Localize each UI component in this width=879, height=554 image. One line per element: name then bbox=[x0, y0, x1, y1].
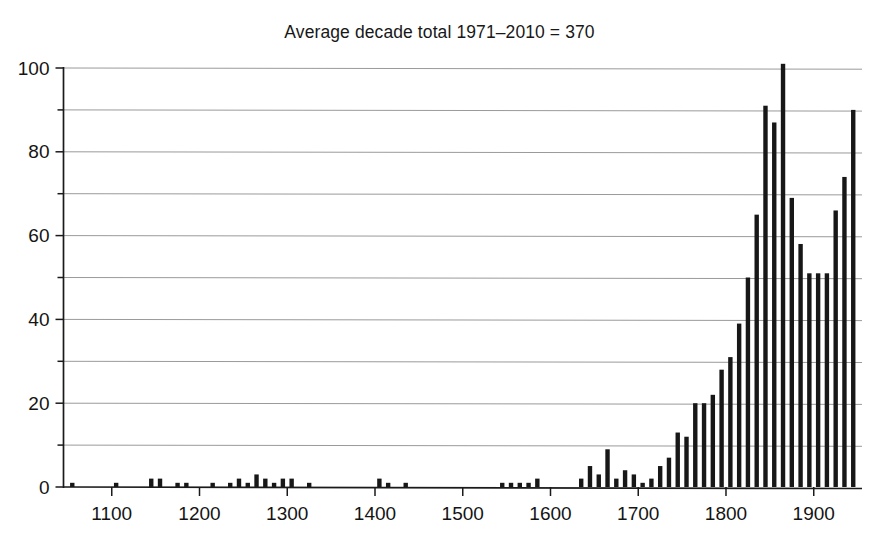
bar-1630 bbox=[579, 479, 583, 487]
bar-1680 bbox=[623, 470, 627, 487]
bar-1900 bbox=[816, 273, 820, 487]
bars-group bbox=[70, 64, 855, 487]
tick-marks-group bbox=[56, 68, 814, 496]
bar-1650 bbox=[597, 474, 601, 487]
gridline-y-30 bbox=[64, 361, 863, 362]
bar-1550 bbox=[509, 483, 513, 487]
gridline-y-40 bbox=[64, 319, 863, 320]
y-tick-label-0: 0 bbox=[39, 477, 50, 498]
bar-1250 bbox=[246, 483, 250, 487]
y-tick-label-20: 20 bbox=[28, 393, 49, 414]
bar-1240 bbox=[237, 479, 241, 487]
bar-1800 bbox=[728, 357, 732, 487]
bar-1730 bbox=[667, 458, 671, 487]
bar-1570 bbox=[526, 483, 530, 487]
bar-1820 bbox=[746, 278, 750, 488]
bar-1400 bbox=[377, 479, 381, 487]
bar-1860 bbox=[781, 64, 785, 487]
bar-1300 bbox=[289, 479, 293, 487]
bar-1580 bbox=[535, 479, 539, 487]
y-tick-label-80: 80 bbox=[28, 141, 49, 162]
bar-1280 bbox=[272, 483, 276, 487]
bar-1810 bbox=[737, 324, 741, 487]
x-axis-labels-group: 110012001300140015001600170018001900 bbox=[91, 503, 835, 524]
gridline-y-10 bbox=[64, 445, 863, 446]
bar-1670 bbox=[614, 479, 618, 487]
bar-1890 bbox=[807, 273, 811, 487]
bar-1270 bbox=[263, 479, 267, 487]
bar-1710 bbox=[649, 479, 653, 487]
gridline-y-70 bbox=[64, 194, 863, 195]
bar-1760 bbox=[693, 403, 697, 487]
bar-1870 bbox=[790, 198, 794, 487]
y-axis-labels-group: 020406080100 bbox=[18, 58, 50, 498]
bar-1180 bbox=[184, 483, 188, 487]
bar-1790 bbox=[719, 370, 723, 487]
chart-figure: Average decade total 1971–2010 = 370 020… bbox=[0, 0, 879, 554]
chart-plot-area: 020406080100 110012001300140015001600170… bbox=[0, 0, 879, 554]
bar-1410 bbox=[386, 483, 390, 487]
gridline-y-90 bbox=[64, 110, 863, 111]
bar-1930 bbox=[842, 177, 846, 487]
gridline-y-100 bbox=[64, 68, 863, 69]
bar-1290 bbox=[281, 479, 285, 487]
x-tick-label-1600: 1600 bbox=[529, 503, 571, 524]
bar-1750 bbox=[684, 437, 688, 487]
bar-1720 bbox=[658, 466, 662, 487]
bar-1920 bbox=[833, 210, 837, 487]
gridline-y-80 bbox=[64, 152, 863, 153]
x-tick-label-1400: 1400 bbox=[354, 503, 396, 524]
bar-1140 bbox=[149, 479, 153, 487]
x-tick-label-1300: 1300 bbox=[266, 503, 308, 524]
bar-1660 bbox=[605, 449, 609, 487]
gridline-y-50 bbox=[64, 278, 863, 279]
x-tick-label-1700: 1700 bbox=[617, 503, 659, 524]
bar-1150 bbox=[158, 479, 162, 487]
y-tick-label-60: 60 bbox=[28, 225, 49, 246]
x-tick-label-1500: 1500 bbox=[442, 503, 484, 524]
bar-1640 bbox=[588, 466, 592, 487]
bar-1540 bbox=[500, 483, 504, 487]
x-tick-label-1800: 1800 bbox=[705, 503, 747, 524]
gridlines-group bbox=[64, 68, 863, 446]
bar-1880 bbox=[798, 244, 802, 487]
bar-1770 bbox=[702, 403, 706, 487]
bar-1850 bbox=[772, 122, 776, 487]
bar-1560 bbox=[518, 483, 522, 487]
bar-1690 bbox=[632, 474, 636, 487]
bar-1780 bbox=[711, 395, 715, 487]
bar-1740 bbox=[676, 433, 680, 487]
bar-1940 bbox=[851, 110, 855, 487]
gridline-y-20 bbox=[64, 403, 863, 404]
bar-1840 bbox=[763, 106, 767, 487]
y-tick-label-40: 40 bbox=[28, 309, 49, 330]
bar-1210 bbox=[210, 483, 214, 487]
bar-1230 bbox=[228, 483, 232, 487]
bar-1430 bbox=[404, 483, 408, 487]
y-tick-label-100: 100 bbox=[18, 58, 50, 79]
bar-1260 bbox=[254, 474, 258, 487]
bar-1700 bbox=[640, 483, 644, 487]
gridline-y-60 bbox=[64, 236, 863, 237]
bar-1320 bbox=[307, 483, 311, 487]
x-tick-label-1900: 1900 bbox=[793, 503, 835, 524]
bar-1830 bbox=[755, 215, 759, 487]
x-tick-label-1200: 1200 bbox=[178, 503, 220, 524]
x-tick-label-1100: 1100 bbox=[91, 503, 132, 524]
bar-1910 bbox=[825, 273, 829, 487]
